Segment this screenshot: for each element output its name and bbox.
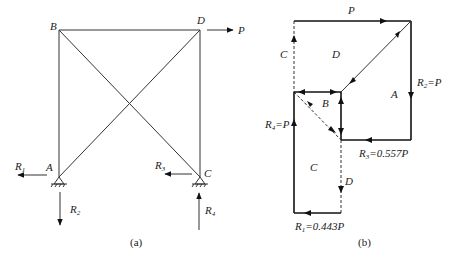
caption-a: (a): [130, 236, 143, 249]
joint-label-c: C: [204, 167, 212, 179]
label-r3-value: R3=0.557P: [358, 147, 408, 161]
reaction-label-r4: R4: [204, 204, 216, 218]
support-a: [51, 177, 67, 187]
force-polygon-figure-b: P C D A B C D R2=P R4=P R3=0.557P R1=0.4…: [264, 4, 442, 249]
label-r4-value: R4=P: [264, 118, 290, 132]
reaction-label-r1: R1: [14, 160, 25, 174]
truss-diagram: B D A C P R1 R2 R3 R4 (a): [0, 0, 452, 261]
region-b: B: [322, 97, 329, 109]
joint-label-b: B: [50, 20, 57, 32]
region-c-bottom: C: [310, 161, 318, 173]
truss-figure-a: B D A C P R1 R2 R3 R4 (a): [14, 14, 245, 249]
region-c-top: C: [280, 48, 288, 60]
label-p: P: [347, 4, 355, 16]
label-r2-value: R2=P: [416, 76, 442, 90]
region-a: A: [390, 88, 398, 100]
region-d-top: D: [331, 48, 340, 60]
joint-label-a: A: [45, 161, 53, 173]
reaction-label-r3: R3: [154, 159, 166, 173]
joint-label-d: D: [196, 14, 205, 26]
reaction-label-r2: R2: [69, 203, 81, 217]
label-r1-value: R1=0.443P: [294, 220, 344, 234]
region-d-bottom: D: [344, 175, 353, 187]
member-force-bc: [294, 92, 341, 140]
caption-b: (b): [358, 236, 371, 249]
load-label-p: P: [237, 24, 245, 36]
